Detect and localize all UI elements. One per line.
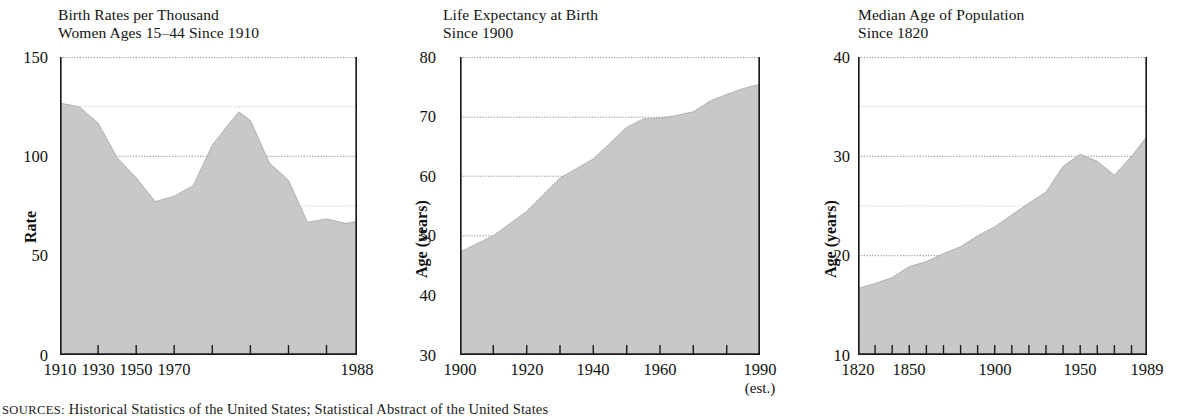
y-tick-50: 50 — [398, 228, 436, 245]
y-tick-30: 30 — [812, 149, 850, 166]
x-tick-1900: 1900 — [422, 362, 498, 379]
x-tick-1960: 1960 — [622, 362, 698, 379]
plot-area-birth-rates — [60, 57, 357, 355]
life-expectancy-area-fill — [460, 84, 760, 355]
plot-area-median-age — [858, 57, 1147, 355]
plot-area-life-expectancy — [460, 57, 760, 355]
chart-title-line2: Since 1820 — [858, 24, 1024, 42]
median-age-area-chart — [858, 57, 1147, 355]
x-tick-1990: 1990 — [722, 362, 798, 379]
x-tick-1970: 1970 — [136, 362, 212, 379]
chart-title-line1: Median Age of Population — [858, 6, 1024, 23]
x-tick-1850: 1850 — [871, 362, 947, 379]
x-tick-1989: 1989 — [1109, 362, 1179, 379]
chart-title-line1: Birth Rates per Thousand — [58, 6, 219, 23]
y-tick-40: 40 — [812, 50, 850, 67]
y-tick-150: 150 — [10, 50, 48, 67]
y-tick-40: 40 — [398, 288, 436, 305]
y-axis-label-birth-rates: Rate — [22, 211, 40, 243]
chart-title-birth-rates: Birth Rates per Thousand Women Ages 15–4… — [58, 6, 259, 42]
birth-rates-area-chart — [60, 57, 357, 355]
x-tick-1990-sublabel: (est.) — [722, 381, 798, 396]
source-note-prefix: SOURCES: — [2, 403, 65, 417]
y-tick-70: 70 — [398, 109, 436, 126]
chart-panel-life-expectancy: Life Expectancy at Birth Since 1900 Age … — [400, 0, 800, 400]
x-tick-1920: 1920 — [489, 362, 565, 379]
y-tick-20: 20 — [812, 248, 850, 265]
chart-title-line2: Women Ages 15–44 Since 1910 — [58, 24, 259, 42]
chart-title-line1: Life Expectancy at Birth — [443, 6, 598, 23]
chart-title-line2: Since 1900 — [443, 24, 598, 42]
x-tick-1988: 1988 — [319, 362, 395, 379]
chart-title-life-expectancy: Life Expectancy at Birth Since 1900 — [443, 6, 598, 42]
y-axis-label-median-age: Age (years) — [822, 200, 840, 278]
y-tick-50: 50 — [10, 248, 48, 265]
chart-title-median-age: Median Age of Population Since 1820 — [858, 6, 1024, 42]
median-age-area-fill — [858, 137, 1147, 356]
source-note: SOURCES: Historical Statistics of the Un… — [2, 401, 548, 418]
y-tick-60: 60 — [398, 169, 436, 186]
chart-panel-median-age: Median Age of Population Since 1820 Age … — [800, 0, 1179, 400]
y-tick-100: 100 — [10, 149, 48, 166]
life-expectancy-area-chart — [460, 57, 760, 355]
x-tick-1950: 1950 — [1042, 362, 1118, 379]
chart-panel-birth-rates: Birth Rates per Thousand Women Ages 15–4… — [0, 0, 400, 400]
y-tick-80: 80 — [398, 50, 436, 67]
x-tick-1940: 1940 — [555, 362, 631, 379]
source-note-text: Historical Statistics of the United Stat… — [65, 401, 548, 417]
x-tick-1900: 1900 — [957, 362, 1033, 379]
birth-rates-area-fill — [60, 103, 357, 355]
